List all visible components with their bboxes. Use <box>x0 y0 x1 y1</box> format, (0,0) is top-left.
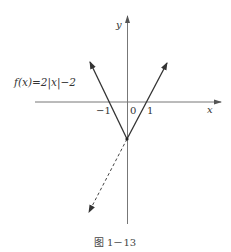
function-graph: y x 0 −1 1 f(x)=2|x|−2 图 1－13 <box>0 0 231 252</box>
tick-label-neg1: −1 <box>96 105 111 116</box>
right-branch-line <box>127 63 167 139</box>
vertex-point <box>125 137 128 140</box>
figure-caption: 图 1－13 <box>94 237 136 248</box>
dashed-extension-line <box>89 139 127 212</box>
y-axis-label: y <box>115 19 122 30</box>
origin-label: 0 <box>130 105 136 116</box>
x-axis-label: x <box>207 104 213 115</box>
left-branch-line <box>90 62 127 139</box>
tick-label-pos1: 1 <box>147 105 153 116</box>
function-label: f(x)=2|x|−2 <box>13 76 76 90</box>
